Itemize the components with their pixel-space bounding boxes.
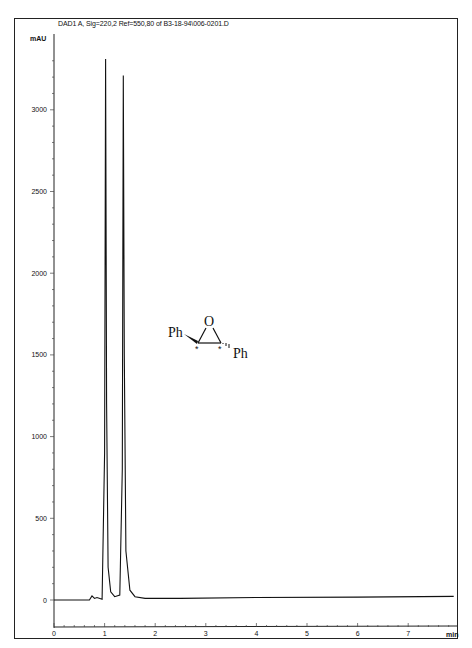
o-c-bond (213, 328, 221, 343)
y-tick-label: 3000 (31, 106, 47, 113)
x-tick-label: 5 (305, 630, 309, 637)
hash-bond-icon (223, 343, 229, 348)
y-axis: 050010001500200025003000 (31, 34, 54, 628)
y-tick-label: 2500 (31, 188, 47, 195)
oxygen-label: O (204, 314, 214, 329)
chromatogram-trace (54, 59, 454, 600)
epoxide-structure: Ph O Ph * * (168, 314, 248, 361)
y-tick-label: 0 (43, 597, 47, 604)
stereo-mark-right: * (218, 344, 222, 354)
right-phenyl-label: Ph (233, 346, 248, 361)
x-tick-label: 1 (103, 630, 107, 637)
y-tick-label: 2000 (31, 270, 47, 277)
x-tick-label: 4 (254, 630, 258, 637)
x-tick-label: 0 (52, 630, 56, 637)
wedge-bond-icon (184, 334, 198, 344)
x-tick-label: 6 (356, 630, 360, 637)
chromatogram-plot: 050010001500200025003000 01234567 Ph O P… (0, 0, 472, 648)
y-tick-label: 1500 (31, 351, 47, 358)
x-axis: 01234567 (52, 623, 457, 637)
stereo-mark-left: * (195, 344, 199, 354)
left-phenyl-label: Ph (168, 325, 183, 340)
y-tick-label: 500 (35, 515, 47, 522)
x-tick-label: 2 (153, 630, 157, 637)
x-tick-label: 3 (204, 630, 208, 637)
y-tick-label: 1000 (31, 433, 47, 440)
x-tick-label: 7 (406, 630, 410, 637)
c-o-bond (198, 328, 206, 343)
